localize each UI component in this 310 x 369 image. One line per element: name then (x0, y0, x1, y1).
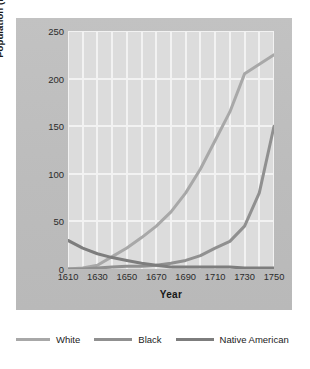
series-lines (68, 31, 274, 269)
legend-item-black[interactable]: Black (94, 334, 175, 345)
legend-label: White (56, 334, 80, 345)
x-tick-label: 1750 (264, 272, 285, 282)
series-line-black (68, 126, 274, 269)
x-tick-label: 1690 (175, 272, 196, 282)
x-tick-label: 1630 (87, 272, 108, 282)
x-tick-label: 1670 (146, 272, 167, 282)
x-tick-label: 1730 (234, 272, 255, 282)
y-tick-label: 200 (18, 73, 64, 84)
x-tick-label: 1610 (58, 272, 79, 282)
x-tick-label: 1710 (205, 272, 226, 282)
y-tick-label: 150 (18, 121, 64, 132)
x-tick-label: 1650 (117, 272, 138, 282)
y-axis-title: Population (in thousands) (0, 0, 5, 78)
legend-item-native-american[interactable]: Native American (176, 334, 303, 345)
y-tick-label: 250 (18, 26, 64, 37)
chart-figure: Population (in thousands) 05010015020025… (0, 0, 310, 369)
x-axis-title: Year (68, 289, 274, 300)
y-tick-label: 50 (18, 216, 64, 227)
y-tick-label: 100 (18, 168, 64, 179)
legend-swatch-icon (94, 338, 132, 341)
legend-label: Native American (220, 334, 289, 345)
chart-legend: WhiteBlackNative American (16, 330, 296, 348)
plot-area (68, 31, 274, 269)
legend-swatch-icon (176, 338, 214, 341)
legend-item-white[interactable]: White (16, 334, 94, 345)
series-line-white (68, 55, 274, 269)
legend-swatch-icon (16, 338, 50, 341)
legend-label: Black (138, 334, 161, 345)
y-axis-ticks: 050100150200250 (18, 31, 64, 269)
x-axis-ticks: 16101630165016701690171017301750 (68, 272, 274, 286)
